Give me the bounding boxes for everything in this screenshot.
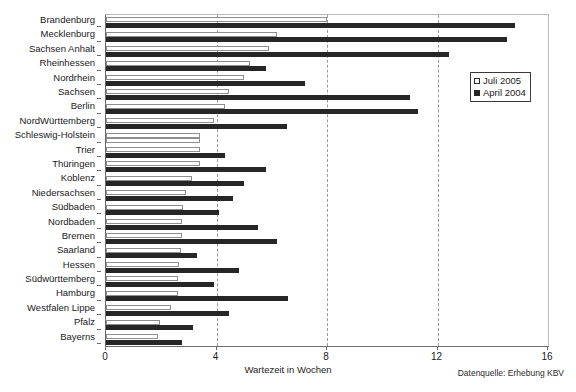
light-swatch-icon xyxy=(474,78,480,84)
bar-row xyxy=(106,317,548,331)
bar-row xyxy=(106,231,548,245)
y-axis-tick-label: Rheinhessen xyxy=(40,58,95,68)
plot-area xyxy=(105,14,549,347)
bar-juli-2005 xyxy=(106,75,244,80)
bar-juli-2005 xyxy=(106,32,277,37)
y-axis-tick-label: Sachsen xyxy=(58,87,95,97)
dark-swatch-icon xyxy=(474,90,480,96)
y-axis-tick xyxy=(97,257,101,258)
x-axis-tick xyxy=(547,346,548,350)
bar-juli-2005 xyxy=(106,262,179,267)
y-axis-tick-label: Hessen xyxy=(63,260,95,270)
source-note: Datenquelle: Erhebung KBV xyxy=(458,368,564,378)
y-axis-tick xyxy=(97,271,101,272)
x-axis-tick xyxy=(105,346,106,350)
bar-april-2004 xyxy=(106,109,418,114)
x-axis-tick xyxy=(216,346,217,350)
y-axis-tick xyxy=(97,98,101,99)
y-axis-tick-label: Nordrhein xyxy=(53,73,95,83)
bar-april-2004 xyxy=(106,167,266,172)
y-axis-tick xyxy=(97,142,101,143)
bar-juli-2005 xyxy=(106,17,327,22)
y-axis-tick xyxy=(97,55,101,56)
bar-row xyxy=(106,245,548,259)
y-axis-tick-label: Trier xyxy=(76,145,95,155)
x-axis-tick-label: 0 xyxy=(102,351,108,363)
y-axis-tick-label: Südbaden xyxy=(52,202,95,212)
y-axis-tick xyxy=(97,199,101,200)
bar-april-2004 xyxy=(106,52,449,57)
y-axis-tick xyxy=(97,113,101,114)
bar-april-2004 xyxy=(106,325,193,330)
bar-juli-2005 xyxy=(106,104,225,109)
y-axis-tick-label: NordWürttemberg xyxy=(20,116,96,126)
bar-april-2004 xyxy=(106,66,266,71)
bar-juli-2005 xyxy=(106,118,214,123)
bar-april-2004 xyxy=(106,138,200,143)
y-axis-tick-label: Koblenz xyxy=(61,173,95,183)
bar-row xyxy=(106,58,548,72)
bar-row xyxy=(106,29,548,43)
y-axis-tick-label: Südwürttemberg xyxy=(25,274,95,284)
bar-april-2004 xyxy=(106,311,229,316)
bar-juli-2005 xyxy=(106,147,200,152)
bar-row xyxy=(106,15,548,29)
bar-row xyxy=(106,116,548,130)
bar-row xyxy=(106,303,548,317)
bar-juli-2005 xyxy=(106,276,178,281)
legend-item: Juli 2005 xyxy=(474,75,526,87)
y-axis-tick xyxy=(97,127,101,128)
y-axis-tick xyxy=(97,314,101,315)
bar-row xyxy=(106,202,548,216)
bar-chart: BrandenburgMecklenburgSachsen AnhaltRhei… xyxy=(0,0,576,392)
bar-juli-2005 xyxy=(106,291,178,296)
bar-april-2004 xyxy=(106,340,182,345)
bar-juli-2005 xyxy=(106,161,200,166)
y-axis-tick-label: Berlin xyxy=(71,101,95,111)
bar-row xyxy=(106,260,548,274)
bar-row xyxy=(106,274,548,288)
y-axis-tick xyxy=(97,70,101,71)
y-axis-labels: BrandenburgMecklenburgSachsen AnhaltRhei… xyxy=(0,14,101,345)
y-axis-tick xyxy=(97,84,101,85)
y-axis-tick-label: Pfalz xyxy=(74,317,95,327)
y-axis-tick xyxy=(97,329,101,330)
bar-april-2004 xyxy=(106,153,225,158)
x-axis-tick-label: 8 xyxy=(323,351,329,363)
bar-juli-2005 xyxy=(106,89,229,94)
bar-april-2004 xyxy=(106,196,233,201)
y-axis-tick xyxy=(97,185,101,186)
y-axis-tick xyxy=(97,170,101,171)
y-axis-tick-label: Nordbaden xyxy=(48,217,95,227)
bar-juli-2005 xyxy=(106,248,181,253)
x-axis-tick xyxy=(437,346,438,350)
bar-april-2004 xyxy=(106,225,258,230)
legend: Juli 2005 April 2004 xyxy=(470,72,531,102)
bar-row xyxy=(106,173,548,187)
y-axis-tick-label: Hamburg xyxy=(56,288,95,298)
bar-juli-2005 xyxy=(106,305,171,310)
y-axis-tick-label: Brandenburg xyxy=(40,15,95,25)
y-axis-tick-label: Westfalen Lippe xyxy=(27,303,95,313)
y-axis-tick xyxy=(97,242,101,243)
y-axis-tick xyxy=(97,41,101,42)
bar-juli-2005 xyxy=(106,219,182,224)
bar-april-2004 xyxy=(106,282,214,287)
y-axis-tick xyxy=(97,213,101,214)
bar-april-2004 xyxy=(106,23,515,28)
y-axis-tick xyxy=(97,156,101,157)
x-axis-tick-label: 4 xyxy=(213,351,219,363)
bar-april-2004 xyxy=(106,239,277,244)
y-axis-tick-label: Bremen xyxy=(62,231,95,241)
bar-april-2004 xyxy=(106,268,239,273)
bar-row xyxy=(106,159,548,173)
bar-juli-2005 xyxy=(106,320,160,325)
y-axis-tick-label: Niedersachsen xyxy=(32,188,95,198)
bar-rows xyxy=(106,15,548,346)
x-axis-tick-label: 12 xyxy=(431,351,442,363)
y-axis-tick xyxy=(97,228,101,229)
bar-juli-2005 xyxy=(106,46,269,51)
bar-juli-2005 xyxy=(106,205,183,210)
bar-juli-2005 xyxy=(106,61,250,66)
y-axis-tick-label: Sachsen Anhalt xyxy=(29,44,95,54)
